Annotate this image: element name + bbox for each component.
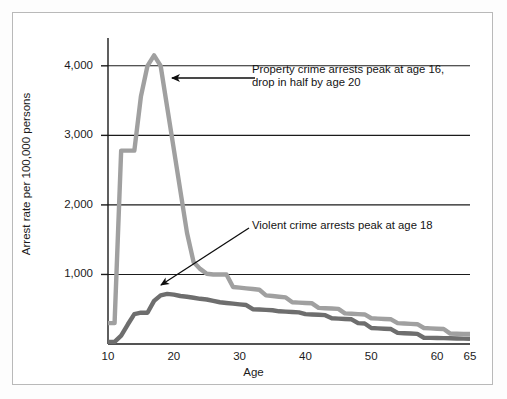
x-axis-title: Age	[0, 366, 507, 378]
annotation-property-crime: Property crime arrests peak at age 16, d…	[252, 63, 444, 89]
x-tick-label: 30	[220, 350, 260, 362]
x-tick-label: 10	[88, 350, 128, 362]
arrow-violent-annotation	[161, 228, 249, 285]
annotation-arrows	[161, 78, 255, 285]
gridlines	[108, 66, 470, 275]
y-tick-label: 1,000	[45, 267, 93, 279]
series-line-property-crime	[108, 55, 470, 334]
y-tick-marks	[101, 66, 108, 275]
x-tick-label: 50	[351, 350, 391, 362]
y-axis-title: Arrest rate per 100,000 persons	[20, 84, 32, 264]
chart-figure: Arrest rate per 100,000 persons Age 1,00…	[0, 0, 507, 399]
annotation-violent-crime: Violent crime arrests peak at age 18	[252, 219, 433, 232]
y-tick-label: 2,000	[45, 198, 93, 210]
x-tick-label: 20	[154, 350, 194, 362]
y-tick-label: 3,000	[45, 128, 93, 140]
y-tick-label: 4,000	[45, 59, 93, 71]
x-tick-label: 65	[450, 350, 490, 362]
x-tick-label: 40	[285, 350, 325, 362]
